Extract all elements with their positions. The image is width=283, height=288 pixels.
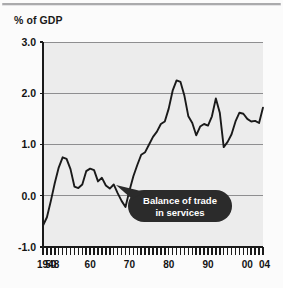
x-tick-label: 50 xyxy=(45,259,57,270)
callout-line-2: in services xyxy=(155,207,204,218)
x-tick-label: 90 xyxy=(202,259,214,270)
plot-area-wrapper: Balance of tradein services 3.02.01.00.0… xyxy=(0,0,283,288)
x-tick-label: 80 xyxy=(163,259,175,270)
y-tick-label: 0.0 xyxy=(21,190,36,202)
callout-line-1: Balance of trade xyxy=(143,195,217,206)
chart-figure: % of GDP Balance of tradein services 3.0… xyxy=(0,0,283,288)
x-tick-labels: 194850607080900004 xyxy=(37,259,270,270)
x-axis-group xyxy=(43,247,263,255)
y-tick-label: 1.0 xyxy=(21,138,36,150)
x-tick-label: 70 xyxy=(124,259,136,270)
x-tick-label: 60 xyxy=(85,259,97,270)
x-tick-label: 00 xyxy=(242,259,254,270)
y-axis-group xyxy=(40,42,44,247)
y-tick-labels: 3.02.01.00.0-1.0 xyxy=(18,36,36,253)
x-tick-label: 04 xyxy=(259,259,271,270)
y-tick-label: 2.0 xyxy=(21,87,36,99)
y-tick-label: -1.0 xyxy=(18,241,36,253)
y-tick-label: 3.0 xyxy=(21,36,36,48)
line-chart-svg: Balance of tradein services 3.02.01.00.0… xyxy=(0,0,283,288)
annotation-callout: Balance of tradein services xyxy=(116,185,232,222)
